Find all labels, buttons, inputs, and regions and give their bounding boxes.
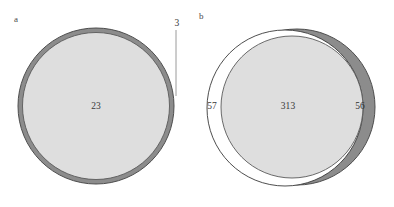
panel-b: b 57 313 56 (197, 0, 394, 207)
panel-b-right-count: 56 (349, 102, 371, 112)
panel-b-left-count: 57 (201, 102, 223, 112)
panel-a: a 23 3 (0, 0, 197, 207)
venn-figure: a 23 3 b 57 313 56 (0, 0, 394, 207)
panel-b-center-count: 313 (273, 102, 303, 112)
panel-a-inner-count: 23 (82, 102, 110, 112)
panel-a-ring-count: 3 (170, 19, 184, 29)
